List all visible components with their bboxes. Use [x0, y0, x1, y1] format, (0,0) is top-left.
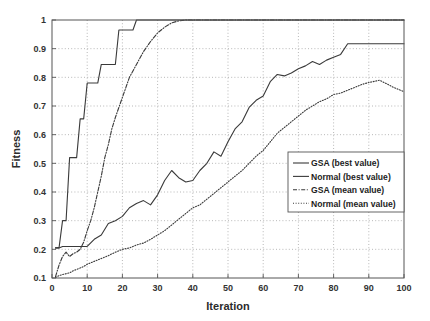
x-tick-label: 100: [396, 283, 411, 293]
y-tick-label: 0.4: [33, 187, 46, 197]
legend-label-3: Normal (mean value): [311, 199, 396, 209]
y-tick-label: 1: [41, 15, 46, 25]
x-axis-title: Iteration: [206, 300, 250, 312]
y-tick-label: 0.6: [33, 130, 46, 140]
y-tick-label: 0.9: [33, 44, 46, 54]
chart-legend: GSA (best value)Normal (best value)GSA (…: [288, 152, 404, 212]
y-axis-title: Fitness: [10, 130, 22, 169]
y-tick-label: 0.1: [33, 273, 46, 283]
x-tick-label: 70: [293, 283, 303, 293]
fitness-convergence-chart: 0102030405060708090100 0.10.20.30.40.50.…: [0, 0, 430, 321]
chart-canvas: 0102030405060708090100 0.10.20.30.40.50.…: [0, 0, 430, 321]
x-tick-label: 20: [117, 283, 127, 293]
x-tick-label: 80: [329, 283, 339, 293]
legend-label-1: Normal (best value): [311, 172, 391, 182]
legend-label-2: GSA (mean value): [311, 185, 384, 195]
x-tick-label: 50: [223, 283, 233, 293]
x-tick-label: 90: [364, 283, 374, 293]
y-tick-label: 0.3: [33, 216, 46, 226]
x-tick-label: 0: [49, 283, 54, 293]
x-tick-label: 60: [258, 283, 268, 293]
x-tick-label: 40: [188, 283, 198, 293]
y-tick-label: 0.8: [33, 73, 46, 83]
y-tick-label: 0.2: [33, 245, 46, 255]
y-tick-label: 0.7: [33, 101, 46, 111]
x-tick-label: 10: [82, 283, 92, 293]
y-tick-label: 0.5: [33, 159, 46, 169]
legend-label-0: GSA (best value): [311, 158, 380, 168]
x-tick-label: 30: [153, 283, 163, 293]
